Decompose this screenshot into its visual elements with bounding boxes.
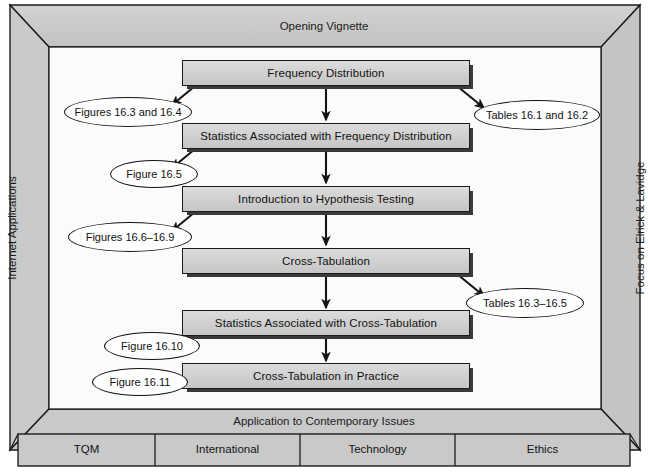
flow-box-cross-tabulation[interactable]: Cross-Tabulation	[182, 248, 470, 274]
callout-label: Figure 16.10	[121, 340, 183, 352]
callout-tables-16-3-16-5[interactable]: Tables 16.3–16.5	[466, 288, 584, 318]
flow-box-statistics-cross-tabulation[interactable]: Statistics Associated with Cross-Tabulat…	[182, 310, 470, 336]
flow-box-cross-tabulation-in-practice[interactable]: Cross-Tabulation in Practice	[182, 363, 470, 389]
callout-figures-16-3-16-4[interactable]: Figures 16.3 and 16.4	[64, 97, 192, 127]
callout-label: Figures 16.6–16.9	[86, 231, 175, 243]
focus-elrick-lavidge-label: Focus on Elrick & Lavidge	[634, 148, 646, 308]
flow-box-label: Frequency Distribution	[267, 67, 384, 79]
callout-label: Tables 16.1 and 16.2	[486, 109, 588, 121]
opening-vignette-label: Opening Vignette	[0, 20, 648, 32]
callout-label: Figure 16.11	[110, 376, 171, 388]
callout-figure-16-10[interactable]: Figure 16.10	[104, 332, 200, 360]
bottom-cell-label: TQM	[74, 443, 100, 455]
bottom-cell-ethics[interactable]: Ethics	[455, 443, 630, 455]
bottom-cell-technology[interactable]: Technology	[300, 443, 455, 455]
callout-label: Figure 16.5	[126, 168, 182, 180]
flow-box-frequency-distribution[interactable]: Frequency Distribution	[182, 60, 470, 86]
figure-canvas: Opening Vignette Internet Applications F…	[0, 0, 648, 472]
flow-box-label: Introduction to Hypothesis Testing	[238, 193, 414, 205]
callout-figure-16-5[interactable]: Figure 16.5	[110, 160, 198, 188]
flow-box-label: Statistics Associated with Cross-Tabulat…	[215, 317, 437, 329]
bottom-cell-label: Ethics	[527, 443, 558, 455]
bottom-cell-international[interactable]: International	[155, 443, 300, 455]
callout-figure-16-11[interactable]: Figure 16.11	[92, 368, 188, 396]
flow-box-label: Statistics Associated with Frequency Dis…	[200, 130, 452, 142]
flow-box-statistics-frequency-distribution[interactable]: Statistics Associated with Frequency Dis…	[182, 123, 470, 149]
bottom-cell-tqm[interactable]: TQM	[18, 443, 155, 455]
callout-figures-16-6-16-9[interactable]: Figures 16.6–16.9	[68, 222, 192, 252]
bottom-cell-label: International	[196, 443, 259, 455]
application-contemporary-issues-label: Application to Contemporary Issues	[0, 415, 648, 427]
internet-applications-label: Internet Applications	[6, 168, 18, 288]
bottom-cell-label: Technology	[348, 443, 406, 455]
flow-box-label: Cross-Tabulation	[282, 255, 370, 267]
callout-label: Tables 16.3–16.5	[483, 297, 567, 309]
callout-label: Figures 16.3 and 16.4	[74, 106, 181, 118]
flow-box-label: Cross-Tabulation in Practice	[253, 370, 399, 382]
flow-box-introduction-hypothesis-testing[interactable]: Introduction to Hypothesis Testing	[182, 186, 470, 212]
callout-tables-16-1-16-2[interactable]: Tables 16.1 and 16.2	[474, 100, 600, 130]
